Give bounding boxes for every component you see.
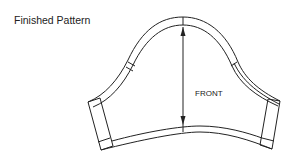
pattern-drawing: FRONT	[0, 0, 292, 158]
bottom-inner-curve	[112, 126, 262, 141]
piece-label: FRONT	[195, 89, 223, 98]
arrowhead-bottom-icon	[181, 116, 186, 125]
left-bottom-hem	[98, 138, 110, 142]
right-bottom-hem	[262, 138, 274, 141]
inner-cap-curve	[93, 25, 278, 107]
right-notch	[231, 62, 237, 66]
right-fold-line	[234, 63, 279, 104]
diagram-canvas: Finished Pattern FRONT	[0, 0, 292, 158]
bottom-outer-curve	[101, 132, 272, 150]
left-outer-edge	[88, 102, 101, 150]
arrowhead-top-icon	[181, 27, 186, 36]
right-outer-edge	[272, 101, 280, 149]
